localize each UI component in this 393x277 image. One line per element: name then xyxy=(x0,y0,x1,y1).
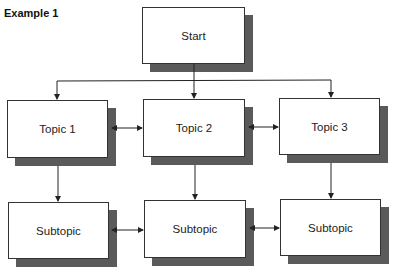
topic3-node: Topic 3 xyxy=(279,98,380,155)
subtopic1-node: Subtopic xyxy=(8,202,109,259)
topic2-node: Topic 2 xyxy=(143,99,245,157)
subtopic3-node: Subtopic xyxy=(280,199,381,256)
start-node: Start xyxy=(142,7,245,64)
subtopic2-node: Subtopic xyxy=(144,200,246,258)
topic1-node: Topic 1 xyxy=(7,100,108,158)
